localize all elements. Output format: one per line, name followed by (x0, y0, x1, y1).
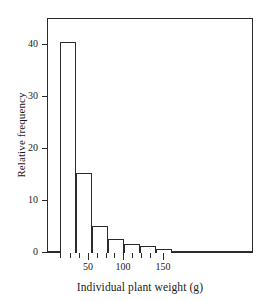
histogram-bar (92, 226, 108, 253)
y-tick-mark (42, 96, 48, 97)
histogram-bar (124, 244, 140, 253)
y-tick-mark (42, 200, 48, 201)
histogram-figure: 0 10 20 30 40 50 100 150 Relative freque… (0, 0, 264, 301)
histogram-bar (140, 246, 156, 253)
x-tick-label: 150 (143, 261, 183, 272)
x-tick-mark (88, 252, 89, 260)
y-tick-mark (42, 44, 48, 45)
x-tick-mark (163, 252, 164, 260)
x-tick-mark (123, 252, 124, 260)
y-tick-mark (42, 252, 48, 253)
y-axis-line (47, 18, 48, 253)
histogram-bar (60, 42, 76, 253)
histogram-bar (108, 239, 124, 253)
y-tick-mark (42, 148, 48, 149)
x-tick-label: 100 (103, 261, 143, 272)
x-axis-title: Individual plant weight (g) (40, 280, 240, 294)
y-axis-title: Relative frequency (14, 18, 28, 252)
histogram-bar (76, 173, 92, 253)
x-tick-label: 50 (68, 261, 108, 272)
histogram-bar (156, 249, 172, 253)
